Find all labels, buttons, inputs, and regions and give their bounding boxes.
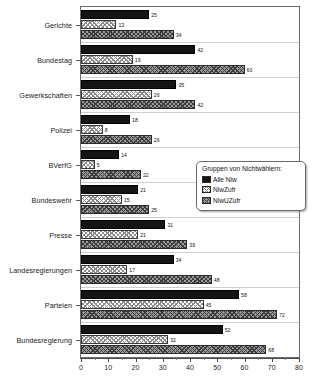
bar-value-label: 21 — [140, 232, 146, 238]
bar-niwzufr: 26 — [81, 90, 152, 99]
bar-niwuzufr: 39 — [81, 240, 187, 249]
bar-value-label: 68 — [268, 347, 274, 353]
bar-niwuzufr: 42 — [81, 100, 195, 109]
legend-item-niwzufr: NiwZufr — [202, 185, 301, 194]
x-axis: 01020304050607080 — [80, 358, 300, 380]
bar-chart: GerichteBundestagGewerkschaftenPolizeiBV… — [0, 0, 314, 381]
bar-alle-niw: 58 — [81, 290, 239, 299]
x-tick — [190, 358, 191, 362]
category-tick — [76, 200, 80, 201]
category-tick — [76, 235, 80, 236]
legend-title: Gruppen von Nichtwählern: — [202, 165, 301, 172]
x-tick-minor — [231, 358, 232, 360]
category-tick — [76, 340, 80, 341]
bar-alle-niw: 18 — [81, 115, 130, 124]
bar-value-label: 58 — [241, 292, 247, 298]
category-label: Gewerkschaften — [19, 90, 72, 99]
x-tick-label: 50 — [213, 364, 221, 371]
bar-value-label: 17 — [129, 267, 135, 273]
category-tick — [76, 270, 80, 271]
bar-niwuzufr: 22 — [81, 170, 141, 179]
legend: Gruppen von Nichtwählern: Alle Niw NiwZu… — [196, 161, 306, 211]
group-separator — [81, 147, 299, 148]
bar-value-label: 39 — [189, 242, 195, 248]
group-separator — [81, 217, 299, 218]
category-tick — [76, 95, 80, 96]
bar-value-label: 34 — [176, 32, 182, 38]
x-tick — [163, 358, 164, 362]
bar-value-label: 25 — [151, 12, 157, 18]
bar-niwzufr: 5 — [81, 160, 95, 169]
bar-alle-niw: 35 — [81, 80, 176, 89]
bar-alle-niw: 42 — [81, 45, 195, 54]
bar-value-label: 35 — [178, 82, 184, 88]
bar-value-label: 45 — [206, 302, 212, 308]
bar-value-label: 34 — [176, 257, 182, 263]
category-tick — [76, 60, 80, 61]
bar-value-label: 14 — [121, 152, 127, 158]
bar-alle-niw: 31 — [81, 220, 165, 229]
bar-value-label: 42 — [197, 47, 203, 53]
x-tick — [299, 358, 300, 362]
bar-niwzufr: 8 — [81, 125, 103, 134]
bar-value-label: 15 — [124, 197, 130, 203]
x-tick-label: 30 — [159, 364, 167, 371]
legend-item-niwuzufr: NiwUZufr — [202, 196, 301, 205]
bar-value-label: 60 — [247, 67, 253, 73]
group-separator — [81, 252, 299, 253]
bar-value-label: 8 — [105, 127, 108, 133]
x-tick-label: 20 — [132, 364, 140, 371]
x-tick-minor — [95, 358, 96, 360]
bar-niwzufr: 21 — [81, 230, 138, 239]
x-tick-minor — [204, 358, 205, 360]
category-tick — [76, 130, 80, 131]
category-tick — [76, 25, 80, 26]
legend-item-label: Alle Niw — [213, 176, 237, 183]
bar-value-label: 5 — [97, 162, 100, 168]
x-tick-label: 10 — [104, 364, 112, 371]
category-label: Gerichte — [44, 20, 72, 29]
bar-value-label: 31 — [167, 222, 173, 228]
category-label: Bundeswehr — [32, 195, 72, 204]
x-tick-minor — [122, 358, 123, 360]
x-tick — [136, 358, 137, 362]
x-tick — [272, 358, 273, 362]
group-separator — [81, 287, 299, 288]
bar-niwzufr: 19 — [81, 55, 133, 64]
group-separator — [81, 42, 299, 43]
bar-niwuzufr: 68 — [81, 345, 266, 354]
bar-niwzufr: 17 — [81, 265, 127, 274]
bar-alle-niw: 21 — [81, 185, 138, 194]
bar-alle-niw: 52 — [81, 325, 223, 334]
x-tick — [245, 358, 246, 362]
bar-value-label: 72 — [279, 312, 285, 318]
bar-value-label: 13 — [118, 22, 124, 28]
bar-niwuzufr: 60 — [81, 65, 245, 74]
bar-niwuzufr: 34 — [81, 30, 174, 39]
x-tick-minor — [285, 358, 286, 360]
bar-value-label: 19 — [135, 57, 141, 63]
bar-value-label: 22 — [143, 172, 149, 178]
bar-value-label: 25 — [151, 207, 157, 213]
x-tick-minor — [176, 358, 177, 360]
bar-value-label: 26 — [154, 137, 160, 143]
bar-niwzufr: 32 — [81, 335, 168, 344]
x-tick-label: 70 — [268, 364, 276, 371]
category-label: BVerfG — [49, 160, 72, 169]
x-tick-label: 60 — [241, 364, 249, 371]
category-label: Parteien — [45, 300, 72, 309]
category-tick — [76, 165, 80, 166]
category-label: Bundesregierung — [17, 335, 73, 344]
legend-swatch-icon — [202, 176, 211, 183]
x-tick-label: 80 — [295, 364, 303, 371]
bar-value-label: 26 — [154, 92, 160, 98]
group-separator — [81, 112, 299, 113]
bar-alle-niw: 14 — [81, 150, 119, 159]
bar-value-label: 21 — [140, 187, 146, 193]
x-tick-label: 40 — [186, 364, 194, 371]
bar-value-label: 48 — [214, 277, 220, 283]
legend-item-label: NiwZufr — [213, 186, 236, 193]
category-label: Polizei — [50, 125, 72, 134]
x-tick-label: 0 — [79, 364, 83, 371]
legend-item-alle-niw: Alle Niw — [202, 175, 301, 184]
